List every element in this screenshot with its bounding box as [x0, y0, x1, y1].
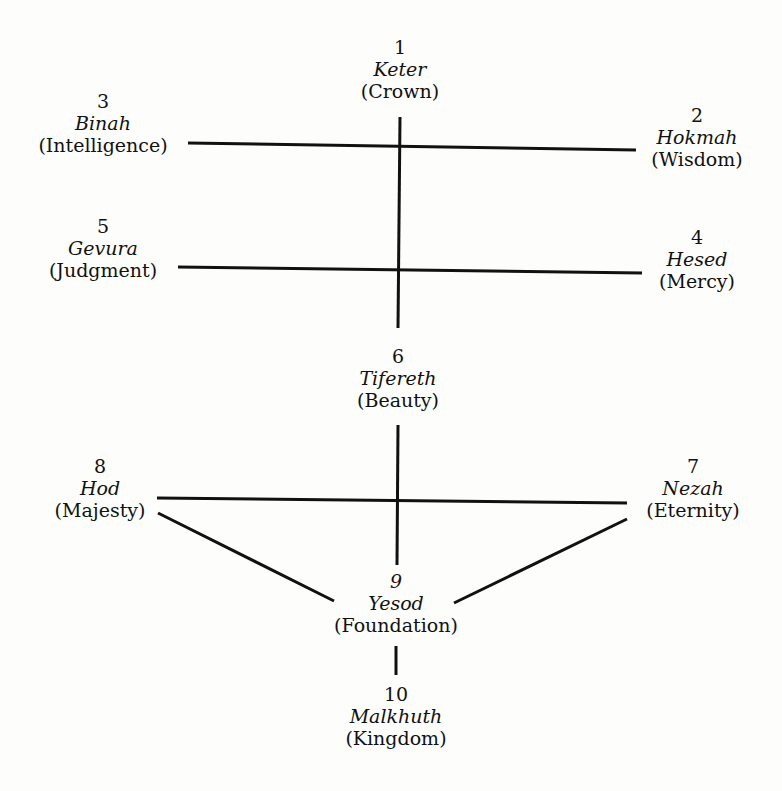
sefirah-number: 9 [334, 570, 458, 592]
sefirah-english-name: (Crown) [361, 80, 439, 102]
sefirah-hod: 8 Hod (Majesty) [55, 455, 146, 521]
sefirah-english-name: (Foundation) [334, 614, 458, 636]
sefirot-diagram: 1 Keter (Crown) 2 Hokmah (Wisdom) 3 Bina… [0, 0, 782, 791]
sefirah-hebrew-name: Malkhuth [345, 705, 446, 727]
sefirah-hebrew-name: Nezah [646, 477, 739, 499]
sefirah-hebrew-name: Binah [38, 112, 167, 134]
sefirah-hebrew-name: Keter [361, 58, 439, 80]
sefirah-english-name: (Judgment) [49, 259, 157, 281]
sefirah-number: 4 [659, 226, 735, 248]
sefirah-hebrew-name: Gevura [49, 237, 157, 259]
sefirah-hokmah: 2 Hokmah (Wisdom) [651, 104, 742, 170]
sefirah-english-name: (Intelligence) [38, 134, 167, 156]
sefirah-hebrew-name: Hod [55, 477, 146, 499]
sefirah-nezah: 7 Nezah (Eternity) [646, 455, 739, 521]
sefirah-tifereth: 6 Tifereth (Beauty) [357, 345, 439, 411]
sefirah-number: 1 [361, 36, 439, 58]
line-hod-nezah [157, 498, 627, 503]
sefirah-number: 6 [357, 345, 439, 367]
line-tifereth-yesod [397, 425, 398, 565]
line-gevura-hesed [178, 267, 642, 273]
sefirah-number: 3 [38, 90, 167, 112]
sefirah-english-name: (Mercy) [659, 270, 735, 292]
sefirah-binah: 3 Binah (Intelligence) [38, 90, 167, 156]
sefirah-keter: 1 Keter (Crown) [361, 36, 439, 102]
line-binah-hokmah [188, 143, 636, 150]
sefirah-number: 8 [55, 455, 146, 477]
sefirah-number: 10 [345, 683, 446, 705]
line-hod-yesod [158, 513, 334, 601]
line-nezah-yesod [454, 519, 627, 603]
sefirah-english-name: (Majesty) [55, 499, 146, 521]
sefirah-english-name: (Wisdom) [651, 148, 742, 170]
sefirah-hebrew-name: Hesed [659, 248, 735, 270]
sefirah-hesed: 4 Hesed (Mercy) [659, 226, 735, 292]
sefirah-number: 2 [651, 104, 742, 126]
sefirah-number: 5 [49, 215, 157, 237]
sefirah-hebrew-name: Tifereth [357, 367, 439, 389]
sefirah-gevura: 5 Gevura (Judgment) [49, 215, 157, 281]
sefirah-number: 7 [646, 455, 739, 477]
sefirah-malkhuth: 10 Malkhuth (Kingdom) [345, 683, 446, 749]
sefirah-english-name: (Eternity) [646, 499, 739, 521]
sefirah-hebrew-name: Hokmah [651, 126, 742, 148]
sefirah-english-name: (Beauty) [357, 389, 439, 411]
sefirah-english-name: (Kingdom) [345, 727, 446, 749]
sefirah-yesod: 9 Yesod (Foundation) [334, 570, 458, 636]
line-keter-tifereth [398, 117, 400, 328]
sefirah-hebrew-name: Yesod [334, 592, 458, 614]
